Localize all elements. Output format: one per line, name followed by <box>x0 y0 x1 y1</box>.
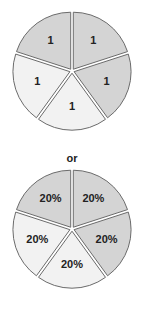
pie-slice-label: 20% <box>40 192 62 204</box>
pie-slice-label: 20% <box>61 258 83 270</box>
pie-chart-percentages: 20%20%20%20%20% <box>13 170 131 288</box>
separator-label: or <box>0 152 144 164</box>
pie-slice-label: 1 <box>34 75 40 87</box>
pie-slice-label: 1 <box>90 34 96 46</box>
pie-slice-label: 20% <box>26 233 48 245</box>
pie-slice-label: 20% <box>82 192 104 204</box>
pie-slice-label: 1 <box>104 75 110 87</box>
pie-slice-label: 20% <box>96 233 118 245</box>
pie-slice-label: 1 <box>69 100 75 112</box>
pie-chart-counts: 11111 <box>13 12 131 130</box>
pie-slice-label: 1 <box>48 34 54 46</box>
